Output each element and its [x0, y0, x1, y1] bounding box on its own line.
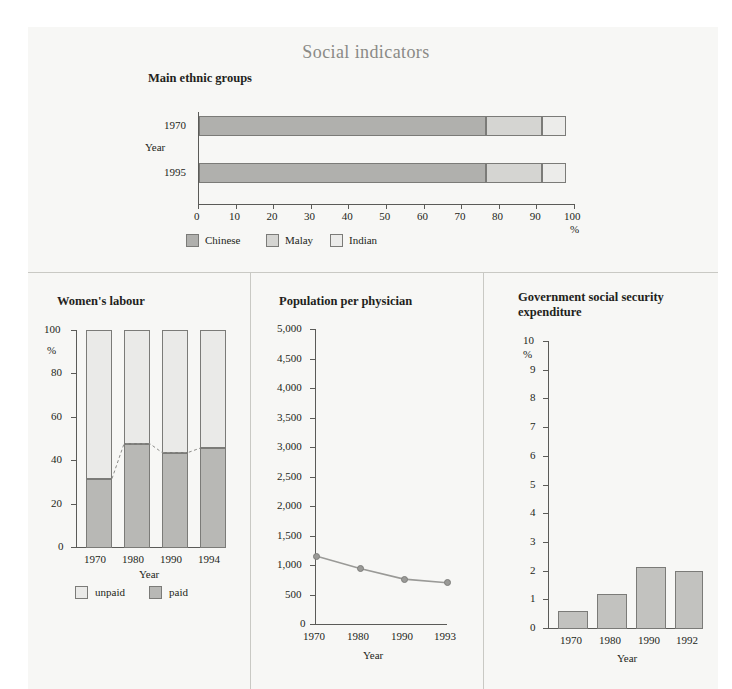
- expenditure-x-tick-label: 1980: [599, 634, 621, 646]
- expenditure-tick: [543, 628, 549, 629]
- expenditure-x-tick-label: 1990: [638, 634, 660, 646]
- physician-data-point: [444, 579, 451, 586]
- expenditure-tick: [543, 513, 549, 514]
- expenditure-tick: [543, 398, 549, 399]
- expenditure-tick: [543, 427, 549, 428]
- expenditure-tick: [543, 370, 549, 371]
- physician-data-point: [313, 553, 320, 560]
- expenditure-tick: [543, 599, 549, 600]
- expenditure-bar-1990: [636, 567, 666, 629]
- expenditure-x-tick-label: 1970: [560, 634, 582, 646]
- expenditure-x-tick-label: 1992: [676, 634, 698, 646]
- expenditure-y-tick-label: 9: [530, 363, 536, 375]
- physician-data-point: [357, 565, 364, 572]
- expenditure-x-axis-label: Year: [617, 652, 637, 664]
- expenditure-y-tick-label: 8: [530, 391, 536, 403]
- expenditure-bar-1992: [675, 571, 703, 629]
- physician-x-tick-label: 1993: [434, 630, 456, 642]
- physician-line-series: [0, 0, 732, 689]
- expenditure-bar-1980: [597, 594, 627, 629]
- expenditure-y-axis-label: %: [523, 348, 532, 360]
- expenditure-y-tick-label: 4: [530, 506, 536, 518]
- physician-x-tick-label: 1970: [303, 630, 325, 642]
- expenditure-tick: [543, 341, 549, 342]
- expenditure-title-text: Government social security expenditure: [518, 290, 664, 319]
- expenditure-tick: [543, 485, 549, 486]
- expenditure-bar-1970: [558, 611, 588, 629]
- expenditure-y-tick-label: 10: [523, 334, 534, 346]
- expenditure-tick: [543, 456, 549, 457]
- expenditure-tick: [543, 571, 549, 572]
- expenditure-y-tick-label: 6: [530, 449, 536, 461]
- expenditure-y-tick-label: 1: [530, 592, 536, 604]
- expenditure-y-tick-label: 5: [530, 478, 536, 490]
- physician-data-point: [401, 576, 408, 583]
- expenditure-chart-title: Government social security expenditure: [518, 290, 693, 320]
- expenditure-tick: [543, 542, 549, 543]
- physician-x-axis-label: Year: [363, 649, 383, 661]
- physician-x-tick-label: 1990: [391, 630, 413, 642]
- expenditure-y-tick-label: 0: [530, 621, 536, 633]
- expenditure-y-tick-label: 2: [530, 564, 536, 576]
- physician-x-tick-label: 1980: [347, 630, 369, 642]
- expenditure-y-tick-label: 3: [530, 535, 536, 547]
- page-root: Social indicators Main ethnic groups 0 1…: [0, 0, 732, 689]
- expenditure-y-tick-label: 7: [530, 420, 536, 432]
